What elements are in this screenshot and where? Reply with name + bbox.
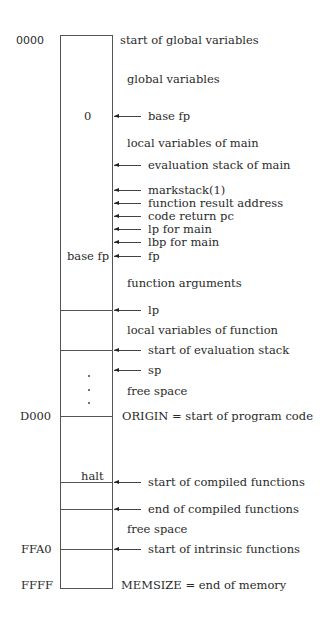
arrow-left-icon [114, 229, 141, 230]
arrow-left-icon [114, 165, 141, 166]
label-sp: sp [148, 364, 161, 377]
label-local-vars-main: local variables of main [127, 137, 259, 150]
arrow-left-icon [114, 216, 141, 217]
label-lp: lp [148, 304, 159, 317]
label-start-globals: start of global variables [120, 34, 259, 47]
arrow-left-icon [114, 190, 141, 191]
label-function-args: function arguments [127, 277, 242, 290]
divider-origin [60, 416, 113, 417]
label-origin: ORIGIN = start of program code [122, 410, 313, 423]
arrow-left-icon [114, 370, 141, 371]
in-box-base-fp: base fp [67, 250, 109, 263]
arrow-left-icon [114, 242, 141, 243]
label-memsize: MEMSIZE = end of memory [121, 579, 286, 592]
in-box-zero: 0 [84, 110, 91, 123]
address-origin: D000 [20, 410, 51, 423]
arrow-left-icon [114, 482, 141, 483]
arrow-left-icon [114, 549, 141, 550]
divider-lp [60, 310, 113, 311]
label-free-space-1: free space [127, 385, 187, 398]
divider-intrinsic [60, 549, 113, 550]
label-start-compiled: start of compiled functions [148, 476, 305, 489]
label-end-compiled: end of compiled functions [148, 503, 299, 516]
arrow-left-icon [114, 256, 141, 257]
label-fp: fp [148, 250, 160, 263]
arrow-left-icon [114, 509, 141, 510]
arrow-left-icon [114, 350, 141, 351]
ellipsis-dot [88, 389, 90, 391]
label-start-intrinsic: start of intrinsic functions [148, 543, 300, 556]
label-lbp-main: lbp for main [148, 236, 219, 249]
arrow-left-icon [114, 116, 141, 117]
address-end: FFFF [21, 579, 53, 592]
label-local-vars-function: local variables of function [127, 324, 278, 337]
arrow-left-icon [114, 203, 141, 204]
address-start: 0000 [16, 34, 44, 47]
memory-layout-diagram: 0000 D000 FFA0 FFFF 0 base fp halt start… [0, 0, 332, 626]
ellipsis-dot [88, 402, 90, 404]
address-intrinsic: FFA0 [21, 543, 52, 556]
divider-end-compiled [60, 509, 113, 510]
ellipsis-dot [88, 375, 90, 377]
label-eval-stack-main: evaluation stack of main [148, 159, 291, 172]
label-free-space-2: free space [127, 523, 187, 536]
arrow-left-icon [114, 310, 141, 311]
in-box-halt: halt [81, 470, 104, 483]
divider-eval-stack [60, 350, 113, 351]
label-start-eval-stack: start of evaluation stack [148, 344, 289, 357]
label-base-fp: base fp [148, 110, 190, 123]
label-global-variables: global variables [127, 73, 220, 86]
